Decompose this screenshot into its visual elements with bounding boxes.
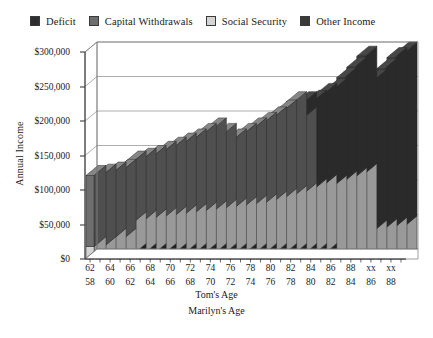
x-axis-tick-label-marilyn: 68 — [186, 277, 196, 287]
x-axis-tick-label-toms: 84 — [306, 263, 316, 273]
x-axis-tick-label-marilyn: 80 — [306, 277, 316, 287]
x-axis-tick-label-toms: 74 — [206, 263, 216, 273]
x-axis-tick-label-toms: xx — [366, 263, 376, 273]
x-axis-title-toms: Tom's Age — [0, 289, 433, 300]
x-axis-tick-label-toms: 82 — [286, 263, 296, 273]
x-axis-tick-label-toms: 86 — [326, 263, 336, 273]
x-axis-tick-label-marilyn: 74 — [246, 277, 256, 287]
x-axis-tick-label-marilyn: 58 — [85, 277, 95, 287]
x-axis-tick-label-toms: 64 — [105, 263, 115, 273]
x-axis-tick-label-marilyn: 64 — [145, 277, 155, 287]
x-axis-tick-label-marilyn: 76 — [266, 277, 276, 287]
x-axis-tick-label-toms: 68 — [145, 263, 155, 273]
x-axis-tick-label-marilyn: 70 — [206, 277, 216, 287]
x-axis-tick-label-toms: 88 — [346, 263, 356, 273]
x-axis-tick-label-toms: 78 — [246, 263, 256, 273]
bar-series-layer — [86, 42, 417, 259]
x-axis-tick-label-marilyn: 62 — [125, 277, 135, 287]
x-axis-ticks-toms: 6264666870727476788082848688xxxx — [0, 263, 433, 277]
x-axis-tick-label-marilyn: 72 — [226, 277, 236, 287]
chart-container: DeficitCapital WithdrawalsSocial Securit… — [0, 0, 433, 338]
x-axis-tick-label-marilyn: 60 — [105, 277, 115, 287]
x-axis-tick-label-marilyn: 88 — [386, 277, 396, 287]
bar-group — [86, 166, 106, 259]
x-axis-tick-label-toms: 62 — [85, 263, 95, 273]
x-axis-title-marilyn: Marilyn's Age — [0, 305, 433, 316]
x-axis-tick-label-toms: 76 — [226, 263, 236, 273]
x-axis-tick-label-marilyn: 66 — [166, 277, 176, 287]
x-axis-tick-label-toms: xx — [386, 263, 396, 273]
x-axis-tick-label-toms: 80 — [266, 263, 276, 273]
x-axis-tick-label-toms: 70 — [166, 263, 176, 273]
x-axis-tick-label-marilyn: 82 — [326, 277, 336, 287]
x-axis-tick-label-marilyn: 86 — [366, 277, 376, 287]
x-axis-tick-label-marilyn: 84 — [346, 277, 356, 287]
x-axis-tick-label-marilyn: 78 — [286, 277, 296, 287]
x-axis-tick-label-toms: 72 — [186, 263, 196, 273]
x-axis-tick-label-toms: 66 — [125, 263, 135, 273]
